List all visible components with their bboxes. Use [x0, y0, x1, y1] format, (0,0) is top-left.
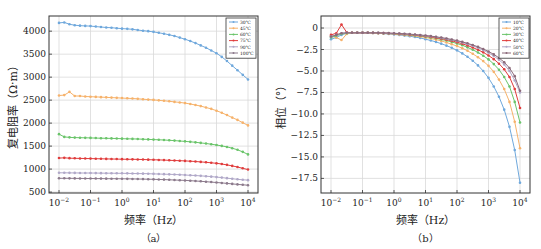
data-marker — [466, 56, 469, 59]
legend-marker — [506, 21, 508, 23]
x-tick-label: 104 — [240, 196, 255, 208]
data-marker — [100, 177, 103, 180]
data-marker — [231, 64, 234, 67]
data-marker — [487, 50, 490, 53]
data-marker — [482, 54, 485, 57]
data-marker — [63, 94, 66, 97]
data-marker — [100, 26, 103, 29]
data-marker — [178, 101, 181, 104]
data-marker — [168, 173, 171, 176]
legend-label: 50℃ — [513, 45, 524, 50]
y-tick-label: 1500 — [23, 141, 46, 151]
legend-marker — [506, 27, 508, 29]
data-marker — [241, 184, 244, 187]
y-tick-label: 3000 — [23, 72, 46, 82]
data-marker — [247, 153, 250, 156]
data-marker — [147, 30, 150, 33]
data-marker — [351, 31, 354, 34]
legend-label: 10℃ — [513, 20, 524, 25]
data-marker — [189, 179, 192, 182]
legend: 10℃20℃30℃40℃50℃60℃ — [499, 18, 529, 58]
data-marker — [503, 108, 506, 111]
data-marker — [152, 99, 155, 102]
data-marker — [68, 91, 71, 94]
data-marker — [440, 36, 443, 39]
data-marker — [445, 44, 448, 47]
data-marker — [94, 177, 97, 180]
x-tick-label: 101 — [146, 196, 161, 208]
data-marker — [115, 172, 118, 175]
data-marker — [508, 101, 511, 104]
data-marker — [168, 179, 171, 182]
data-marker — [241, 121, 244, 124]
data-marker — [68, 157, 71, 160]
data-marker — [84, 172, 87, 175]
data-marker — [115, 158, 118, 161]
data-marker — [482, 60, 485, 63]
legend-label: 100℃ — [240, 51, 254, 56]
data-marker — [126, 28, 129, 31]
data-marker — [498, 95, 501, 98]
data-marker — [414, 33, 417, 36]
data-marker — [215, 109, 218, 112]
x-tick-label: 103 — [481, 196, 496, 208]
data-marker — [178, 179, 181, 182]
data-marker — [471, 53, 474, 56]
data-marker — [199, 175, 202, 178]
data-marker — [142, 178, 145, 181]
data-marker — [503, 76, 506, 79]
resistivity-chart: 10−210−110010110210310450010001500200025… — [0, 0, 270, 249]
x-tick-label: 101 — [418, 196, 433, 208]
data-marker — [429, 35, 432, 38]
legend-label: 75℃ — [240, 38, 251, 43]
data-marker — [100, 172, 103, 175]
data-marker — [168, 159, 171, 162]
data-marker — [247, 179, 250, 182]
data-marker — [241, 74, 244, 77]
data-marker — [73, 136, 76, 139]
data-marker — [220, 176, 223, 179]
data-marker — [236, 148, 239, 151]
data-marker — [372, 31, 375, 34]
data-marker — [487, 58, 490, 61]
data-marker — [79, 172, 82, 175]
y-tick-label: 1000 — [23, 164, 46, 174]
data-marker — [136, 172, 139, 175]
y-axis: 5001000150020002500300035004000 — [23, 26, 52, 197]
data-marker — [79, 95, 82, 98]
x-tick-label: 10−1 — [352, 196, 372, 208]
data-marker — [105, 177, 108, 180]
data-marker — [157, 159, 160, 162]
data-marker — [157, 173, 160, 176]
data-marker — [173, 101, 176, 104]
data-marker — [131, 158, 134, 161]
data-marker — [168, 100, 171, 103]
data-marker — [231, 116, 234, 119]
data-marker — [508, 67, 511, 70]
x-tick-label: 100 — [386, 196, 401, 208]
data-marker — [519, 147, 522, 150]
data-marker — [498, 78, 501, 81]
legend-label: 90℃ — [240, 45, 251, 50]
data-marker — [492, 85, 495, 88]
data-marker — [63, 157, 66, 160]
data-marker — [100, 137, 103, 140]
data-marker — [508, 85, 511, 88]
data-marker — [58, 157, 61, 160]
data-marker — [356, 31, 359, 34]
data-marker — [68, 23, 71, 26]
data-marker — [231, 165, 234, 168]
data-marker — [456, 49, 459, 52]
data-marker — [210, 143, 213, 146]
x-tick-label: 103 — [209, 196, 224, 208]
y-tick-label: 2000 — [23, 118, 46, 128]
data-marker — [220, 145, 223, 148]
data-marker — [115, 97, 118, 100]
data-marker — [63, 177, 66, 180]
data-marker — [126, 158, 129, 161]
data-marker — [236, 178, 239, 181]
data-marker — [152, 159, 155, 162]
data-marker — [215, 144, 218, 147]
data-marker — [131, 97, 134, 100]
data-marker — [226, 182, 229, 185]
